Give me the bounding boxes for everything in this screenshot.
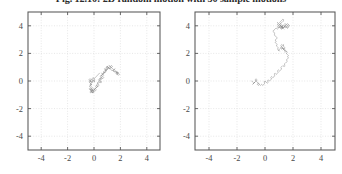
plot-panel-left: -4-2024-4-2024 bbox=[0, 6, 171, 174]
figure-caption: Fig. 12.10: 2D random motion with 50 sam… bbox=[0, 0, 342, 5]
y-tick-label: 2 bbox=[19, 49, 23, 58]
tick-labels-left: -4-2024-4-2024 bbox=[16, 22, 150, 163]
y-tick-label: 2 bbox=[186, 49, 190, 58]
y-tick-label: -4 bbox=[16, 132, 24, 141]
x-tick-label: 0 bbox=[92, 154, 96, 163]
x-tick-label: 4 bbox=[319, 154, 324, 163]
x-tick-label: 2 bbox=[291, 154, 295, 163]
y-tick-label: 4 bbox=[19, 22, 24, 31]
x-tick-label: 4 bbox=[145, 154, 150, 163]
tick-labels-right: -4-2024-4-2024 bbox=[183, 22, 324, 163]
random-walk-trace bbox=[252, 19, 290, 85]
y-tick-label: 4 bbox=[186, 22, 191, 31]
x-tick-label: 2 bbox=[118, 154, 122, 163]
y-tick-label: 0 bbox=[19, 77, 23, 86]
random-walk-plot-left: -4-2024-4-2024 bbox=[0, 6, 171, 174]
y-tick-label: -2 bbox=[183, 105, 190, 114]
x-tick-label: -2 bbox=[234, 154, 241, 163]
figure-body: -4-2024-4-2024 -4-2024-4-2024 bbox=[0, 6, 342, 174]
x-tick-label: -4 bbox=[206, 154, 214, 163]
walk-trace-left bbox=[89, 65, 120, 93]
x-tick-label: 0 bbox=[263, 154, 267, 163]
y-tick-label: -4 bbox=[183, 132, 191, 141]
y-tick-label: 0 bbox=[186, 77, 190, 86]
walk-trace-right bbox=[252, 19, 290, 85]
random-walk-plot-right: -4-2024-4-2024 bbox=[171, 6, 342, 174]
plot-panel-right: -4-2024-4-2024 bbox=[171, 6, 342, 174]
y-tick-label: -2 bbox=[16, 105, 23, 114]
x-tick-label: -2 bbox=[64, 154, 71, 163]
x-tick-label: -4 bbox=[38, 154, 46, 163]
random-walk-trace bbox=[89, 65, 120, 93]
